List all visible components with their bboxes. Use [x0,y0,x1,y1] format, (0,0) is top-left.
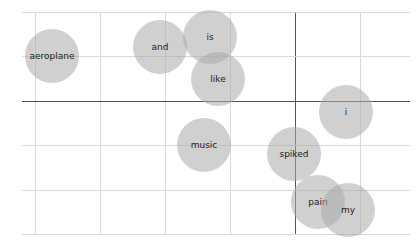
bubble-label: and [152,42,169,52]
bubble-spiked: spiked [267,127,321,181]
bubble-i: i [319,85,373,139]
bubble-label: i [345,107,348,117]
bubble-music: music [177,118,231,172]
bubble-label: like [210,74,225,84]
vertical-gridline [100,12,101,234]
bubble-and: and [133,20,187,74]
bubble-like: like [191,52,245,106]
bubble-label: is [206,32,213,42]
bubble-label: aeroplane [29,51,74,61]
bubble-chart: aeroplaneandislikeimusicspikedpainmy [0,0,417,243]
bubble-label: music [191,140,218,150]
bubble-label: my [341,205,355,215]
bubble-label: spiked [279,149,308,159]
bubble-aeroplane: aeroplane [25,29,79,83]
bubble-my: my [321,183,375,237]
